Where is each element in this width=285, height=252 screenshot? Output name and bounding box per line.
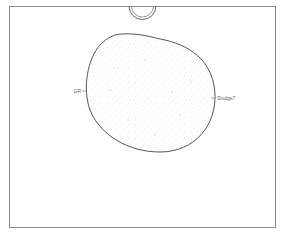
diagram-canvas: GR Sludge7 [0,0,285,252]
top-notch [129,6,156,20]
specimen-blob [80,30,220,156]
label-left: GR [74,88,82,94]
label-right: Sludge7 [217,95,236,101]
